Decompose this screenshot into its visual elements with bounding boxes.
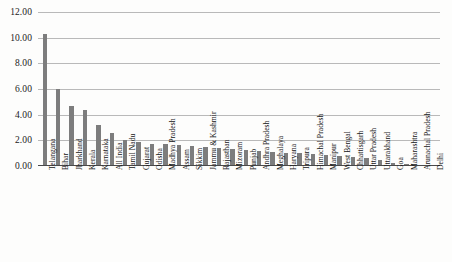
bar-slot	[145, 12, 158, 166]
x-tick-slot: Andhra Pradesh	[253, 168, 266, 262]
x-tick-label: Punjab	[250, 149, 258, 170]
x-tick-slot: Arunachal Pradesh	[413, 168, 426, 262]
x-tick-label: Uttar Pradesh	[370, 128, 378, 170]
x-tick-slot: Uttar Pradesh	[360, 168, 373, 262]
x-axis: TelanganaBiharJharkhandKeralaKarnatakaAl…	[38, 168, 440, 262]
x-tick-label: Gujarat	[143, 147, 151, 170]
x-tick-slot: Manipur	[320, 168, 333, 262]
x-tick-slot: Chhattisgarh	[346, 168, 359, 262]
y-axis: 0.002.004.006.008.0010.0012.00	[0, 0, 36, 262]
x-tick-label: Tamil Nadu	[129, 134, 137, 170]
x-tick-slot: Jammu & Kashmir	[199, 168, 212, 262]
bar[interactable]	[177, 145, 181, 166]
x-tick-label: Jharkhand	[76, 138, 84, 170]
bar-slot	[185, 12, 198, 166]
x-tick-slot: Delhi	[427, 168, 440, 262]
x-tick-label: Telangana	[49, 138, 57, 170]
x-tick-label: Arunachal Pradesh	[424, 112, 432, 170]
x-tick-slot: Goa	[387, 168, 400, 262]
bar[interactable]	[244, 150, 248, 166]
x-tick-label: Himachal Pradesh	[317, 114, 325, 170]
x-tick-label: Maharashtra	[411, 131, 419, 170]
x-tick-slot: Haryana	[279, 168, 292, 262]
x-tick-slot: All India	[105, 168, 118, 262]
x-tick-label: Madhya Pradesh	[169, 118, 177, 170]
bar[interactable]	[136, 142, 140, 166]
x-tick-label: Meghalaya	[277, 136, 285, 170]
x-tick-slot: Telangana	[38, 168, 51, 262]
x-tick-label: West Bengal	[344, 131, 352, 170]
x-tick-slot: Himachal Pradesh	[306, 168, 319, 262]
x-tick-slot: Maharashtra	[400, 168, 413, 262]
x-tick-slot: Rajasthan	[212, 168, 225, 262]
x-tick-slot: Karnataka	[92, 168, 105, 262]
x-tick-label: Haryana	[290, 144, 298, 170]
x-tick-label: Mizoram	[236, 142, 244, 170]
x-tick-slot: Bihar	[51, 168, 64, 262]
x-tick-label: Delhi	[437, 153, 445, 170]
bar[interactable]	[203, 147, 207, 166]
x-tick-slot: West Bengal	[333, 168, 346, 262]
x-tick-slot: Tamil Nadu	[118, 168, 131, 262]
x-tick-label: Karnataka	[102, 138, 110, 170]
x-tick-label: Rajasthan	[223, 140, 231, 170]
x-tick-label: Manipur	[330, 143, 338, 170]
x-tick-label: Andhra Pradesh	[263, 121, 271, 170]
x-tick-slot: Madhya Pradesh	[159, 168, 172, 262]
x-tick-label: Sikkim	[196, 148, 204, 170]
x-tick-label: Jammu & Kashmir	[210, 111, 218, 170]
x-tick-label: Assam	[183, 149, 191, 170]
y-tick-label: 4.00	[15, 110, 32, 120]
x-tick-label: Odisha	[156, 148, 164, 170]
y-tick-label: 0.00	[15, 161, 32, 171]
x-tick-slot: Assam	[172, 168, 185, 262]
y-tick-label: 2.00	[15, 135, 32, 145]
x-tick-slot: Odisha	[145, 168, 158, 262]
x-tick-label: Tripura	[303, 147, 311, 170]
x-tick-label: All India	[116, 142, 124, 170]
x-tick-slot: Tripura	[293, 168, 306, 262]
bar[interactable]	[43, 34, 47, 166]
bar-chart: 0.002.004.006.008.0010.0012.00 Telangana…	[0, 0, 452, 262]
x-tick-slot: Sikkim	[185, 168, 198, 262]
x-tick-slot: Punjab	[239, 168, 252, 262]
y-tick-label: 6.00	[15, 84, 32, 94]
x-tick-slot: Uttarakhand	[373, 168, 386, 262]
x-tick-slot: Kerala	[78, 168, 91, 262]
x-tick-slot: Jharkhand	[65, 168, 78, 262]
x-tick-slot: Gujarat	[132, 168, 145, 262]
x-tick-label: Uttarakhand	[384, 132, 392, 170]
y-tick-label: 12.00	[10, 7, 32, 17]
x-tick-slot: Meghalaya	[266, 168, 279, 262]
y-tick-label: 8.00	[15, 58, 32, 68]
y-tick-label: 10.00	[10, 33, 32, 43]
x-tick-label: Chhattisgarh	[357, 131, 365, 170]
bar[interactable]	[110, 133, 114, 166]
x-tick-slot: Mizoram	[226, 168, 239, 262]
bar-slot	[293, 12, 306, 166]
x-tick-label: Kerala	[89, 149, 97, 170]
